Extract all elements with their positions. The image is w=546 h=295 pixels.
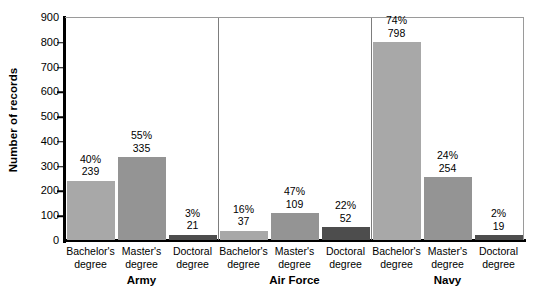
bar-value-label: 47%109 (284, 185, 305, 210)
bar-value-label: 2%19 (491, 207, 506, 232)
x-axis-category-labels: Bachelor'sdegreeMaster'sdegreeDoctoralde… (65, 245, 524, 273)
category-label-line2: degree (473, 258, 524, 271)
x-axis-group-labels: ArmyAir ForceNavy (65, 274, 524, 292)
category-label-line1: Bachelor's (218, 245, 269, 258)
category-label-line1: Bachelor's (65, 245, 116, 258)
y-axis-tick-mark (57, 42, 65, 44)
group-label: Air Force (218, 274, 371, 286)
bar-value-label: 40%239 (80, 153, 101, 178)
category-label-line1: Doctoral (167, 245, 218, 258)
bar-value-label: 3%21 (185, 207, 200, 232)
x-axis-category-label: Master'sdegree (422, 245, 473, 271)
y-axis-tick-mark (57, 92, 65, 94)
y-axis-tick-mark (57, 166, 65, 168)
bar-count-text: 52 (335, 212, 356, 225)
bar-count-text: 798 (386, 27, 407, 40)
y-axis-tick-mark (57, 141, 65, 143)
bar-value-label: 16%37 (233, 203, 254, 228)
plot-area: 40%23955%3353%2116%3747%10922%5274%79824… (65, 17, 524, 240)
category-label-line2: degree (320, 258, 371, 271)
bar-count-text: 19 (491, 220, 506, 233)
category-label-line2: degree (167, 258, 218, 271)
bar-value-label: 22%52 (335, 199, 356, 224)
bar-percent-text: 24% (437, 149, 458, 162)
x-axis-category-label: Master'sdegree (116, 245, 167, 271)
category-label-line1: Master's (269, 245, 320, 258)
bar-count-text: 109 (284, 198, 305, 211)
bar-percent-text: 22% (335, 199, 356, 212)
bar-percent-text: 2% (491, 207, 506, 220)
bar: 3%21 (169, 235, 217, 240)
bar: 2%19 (475, 235, 523, 240)
bar: 74%798 (373, 42, 421, 240)
group-label: Army (65, 274, 218, 286)
bar: 40%239 (67, 181, 115, 240)
bar: 47%109 (271, 213, 319, 240)
bar-count-text: 37 (233, 215, 254, 228)
bar-value-label: 24%254 (437, 149, 458, 174)
bar-count-text: 335 (131, 142, 152, 155)
bar-percent-text: 3% (185, 207, 200, 220)
y-axis-tick-label: 0 (53, 235, 59, 246)
bar: 16%37 (220, 231, 268, 240)
x-axis-category-label: Bachelor'sdegree (371, 245, 422, 271)
y-axis-title: Number of records (4, 0, 22, 240)
y-axis-tick-label: 900 (41, 12, 59, 23)
bar-percent-text: 16% (233, 203, 254, 216)
category-label-line2: degree (65, 258, 116, 271)
category-label-line2: degree (218, 258, 269, 271)
y-axis-tick-mark (57, 67, 65, 69)
y-axis-title-text: Number of records (7, 68, 19, 173)
bar-percent-text: 74% (386, 14, 407, 27)
bar-count-text: 239 (80, 165, 101, 178)
bar-percent-text: 47% (284, 185, 305, 198)
category-label-line1: Master's (116, 245, 167, 258)
x-axis-category-label: Bachelor'sdegree (65, 245, 116, 271)
y-axis-tick-mark (57, 215, 65, 217)
group-label: Navy (371, 274, 524, 286)
x-axis-category-label: Doctoraldegree (167, 245, 218, 271)
x-axis-category-label: Doctoraldegree (320, 245, 371, 271)
x-axis-category-label: Bachelor'sdegree (218, 245, 269, 271)
bar-count-text: 21 (185, 219, 200, 232)
category-label-line1: Bachelor's (371, 245, 422, 258)
category-label-line2: degree (116, 258, 167, 271)
bar-percent-text: 40% (80, 153, 101, 166)
category-label-line1: Doctoral (473, 245, 524, 258)
bar-count-text: 254 (437, 162, 458, 175)
bar-value-label: 74%798 (386, 14, 407, 39)
category-label-line2: degree (371, 258, 422, 271)
category-label-line1: Doctoral (320, 245, 371, 258)
bar-chart: Number of records 0100200300400500600700… (0, 0, 546, 295)
bar: 24%254 (424, 177, 472, 240)
y-axis-tick-mark (57, 191, 65, 193)
group-separator-line (218, 18, 219, 240)
category-label-line2: degree (269, 258, 320, 271)
y-axis-tick-mark (57, 116, 65, 118)
y-axis-tick-labels: 0100200300400500600700800900 (22, 0, 62, 240)
bar: 22%52 (322, 227, 370, 240)
bar-percent-text: 55% (131, 129, 152, 142)
category-label-line1: Master's (422, 245, 473, 258)
x-axis-category-label: Master'sdegree (269, 245, 320, 271)
bar: 55%335 (118, 157, 166, 240)
bar-value-label: 55%335 (131, 129, 152, 154)
category-label-line2: degree (422, 258, 473, 271)
x-axis-category-label: Doctoraldegree (473, 245, 524, 271)
